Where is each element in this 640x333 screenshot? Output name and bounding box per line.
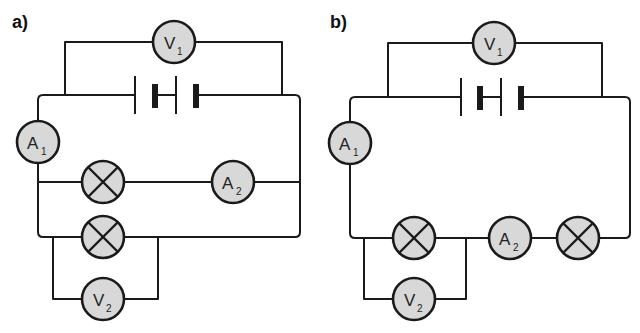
ammeter-a2-a: A 2	[212, 161, 254, 203]
svg-text:V: V	[164, 34, 176, 53]
main-wire-b	[350, 97, 630, 238]
circuit-diagrams: a) V 1 A 1	[0, 0, 640, 333]
voltmeter-v1-b: V 1	[473, 22, 515, 64]
svg-text:1: 1	[177, 46, 183, 57]
panel-label-b: b)	[330, 12, 347, 32]
lamp-icon-a2	[82, 216, 124, 258]
svg-text:2: 2	[236, 186, 242, 197]
svg-text:2: 2	[513, 242, 519, 253]
lamp-icon-b2	[557, 217, 599, 259]
ammeter-a1-a: A 1	[17, 121, 59, 163]
voltmeter-v2-b: V 2	[393, 278, 435, 320]
main-wire-a	[38, 95, 300, 237]
svg-text:V: V	[484, 35, 496, 54]
voltmeter-v2-a: V 2	[82, 278, 124, 320]
lamp-icon-a1	[82, 161, 124, 203]
left-wire-a	[38, 164, 81, 237]
svg-text:A: A	[339, 135, 351, 154]
svg-text:1: 1	[41, 146, 47, 157]
battery-icon-b	[461, 78, 521, 116]
svg-text:2: 2	[106, 303, 112, 314]
circuit-a: a) V 1 A 1	[12, 12, 300, 320]
svg-text:1: 1	[353, 147, 359, 158]
battery-icon-a	[135, 76, 196, 114]
panel-label-a: a)	[12, 12, 28, 32]
svg-text:A: A	[499, 230, 511, 249]
svg-text:V: V	[404, 291, 416, 310]
circuit-b: b) V 1 A 1	[329, 12, 630, 320]
svg-text:V: V	[93, 291, 105, 310]
svg-text:A: A	[222, 174, 234, 193]
ammeter-a2-b: A 2	[489, 217, 531, 259]
lamp-icon-b1	[393, 217, 435, 259]
ammeter-a1-b: A 1	[329, 122, 371, 164]
svg-text:A: A	[27, 134, 39, 153]
svg-text:1: 1	[497, 47, 503, 58]
voltmeter-v1-a: V 1	[153, 21, 195, 63]
svg-text:2: 2	[417, 303, 423, 314]
